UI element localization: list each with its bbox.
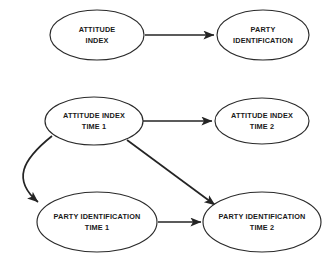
diagram-canvas: ATTITUDE INDEX PARTY IDENTIFICATION ATTI… bbox=[0, 0, 326, 274]
caption-fragment bbox=[0, 264, 326, 274]
node-attitude-index-time-1-label-line-1: ATTITUDE INDEX bbox=[63, 111, 125, 120]
node-attitude-index-label-line-1: ATTITUDE bbox=[79, 25, 116, 34]
node-party-identification-time-2-label-line-2: TIME 2 bbox=[250, 223, 274, 232]
node-attitude-index: ATTITUDE INDEX bbox=[50, 10, 144, 60]
node-attitude-index-time-2: ATTITUDE INDEX TIME 2 bbox=[215, 98, 309, 144]
node-layer: ATTITUDE INDEX PARTY IDENTIFICATION ATTI… bbox=[37, 10, 321, 252]
edge-attitude-index-time-1-to-party-identification-time-2 bbox=[127, 140, 215, 205]
node-party-identification-time-1: PARTY IDENTIFICATION TIME 1 bbox=[37, 192, 157, 252]
node-party-identification: PARTY IDENTIFICATION bbox=[217, 10, 309, 60]
node-party-identification-time-1-label-line-1: PARTY IDENTIFICATION bbox=[54, 212, 141, 221]
node-party-identification-label-line-1: PARTY bbox=[251, 25, 276, 34]
node-party-identification-time-1-label-line-2: TIME 1 bbox=[85, 223, 109, 232]
node-party-identification-label-line-2: IDENTIFICATION bbox=[233, 36, 293, 45]
node-party-identification-time-2-label-line-1: PARTY IDENTIFICATION bbox=[219, 212, 306, 221]
node-attitude-index-time-1-label-line-2: TIME 1 bbox=[82, 122, 106, 131]
node-attitude-index-time-1: ATTITUDE INDEX TIME 1 bbox=[45, 97, 143, 145]
path-diagram-figure: ATTITUDE INDEX PARTY IDENTIFICATION ATTI… bbox=[0, 0, 326, 274]
node-attitude-index-time-2-label-line-2: TIME 2 bbox=[250, 122, 274, 131]
node-party-identification-time-2: PARTY IDENTIFICATION TIME 2 bbox=[203, 192, 321, 252]
node-attitude-index-time-2-label-line-1: ATTITUDE INDEX bbox=[231, 111, 293, 120]
edge-attitude-index-time-1-to-party-identification-time-1 bbox=[23, 136, 52, 202]
node-attitude-index-label-line-2: INDEX bbox=[85, 36, 108, 45]
